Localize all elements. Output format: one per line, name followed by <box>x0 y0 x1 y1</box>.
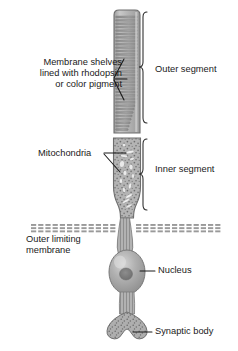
membrane-dash <box>89 227 94 229</box>
axon-fibers <box>119 292 134 314</box>
label-mitochondria: Mitochondria <box>38 148 91 159</box>
membrane-shelf <box>116 125 130 127</box>
label-outer-limiting-membrane-line2: membrane <box>26 245 81 256</box>
membrane-dash <box>74 224 79 226</box>
membrane-dash <box>60 230 65 232</box>
label-synaptic-body: Synaptic body <box>155 326 213 337</box>
membrane-dash <box>215 227 220 229</box>
membrane-dash <box>38 230 43 232</box>
membrane-shelf <box>116 16 138 18</box>
membrane-dash <box>186 230 191 232</box>
membrane-shelf <box>116 43 138 45</box>
membrane-dash <box>103 227 108 229</box>
membrane-dash <box>53 224 58 226</box>
membrane-dash <box>150 224 155 226</box>
photoreceptor-diagram: Membrane shelves lined with rhodopsin or… <box>0 0 238 351</box>
diagram-canvas <box>0 0 238 351</box>
membrane-dash <box>165 227 170 229</box>
nucleolus <box>120 268 133 280</box>
membrane-dash <box>201 227 206 229</box>
membrane-dash <box>96 230 101 232</box>
membrane-dash <box>172 224 177 226</box>
membrane-dash <box>81 230 86 232</box>
membrane-dash <box>215 224 220 226</box>
membrane-dash <box>74 230 79 232</box>
membrane-dash <box>186 224 191 226</box>
membrane-shelf <box>116 47 138 49</box>
membrane-dash <box>110 227 115 229</box>
label-membrane-shelves: Membrane shelves lined with rhodopsin or… <box>4 57 122 91</box>
axon-stalk <box>119 292 134 314</box>
membrane-shelf <box>116 91 138 93</box>
membrane-dash <box>194 224 199 226</box>
membrane-dash <box>45 227 50 229</box>
nucleus-highlight <box>114 256 126 269</box>
label-membrane-shelves-line2: lined with rhodopsin <box>4 68 122 79</box>
membrane-dash <box>31 227 36 229</box>
label-outer-limiting-membrane: Outer limiting membrane <box>26 234 81 256</box>
membrane-dash <box>158 230 163 232</box>
membrane-shelf <box>116 122 131 124</box>
membrane-dash <box>60 224 65 226</box>
membrane-dash <box>53 227 58 229</box>
membrane-dash <box>89 230 94 232</box>
membrane-shelf <box>116 23 138 25</box>
membrane-dash <box>179 230 184 232</box>
connecting-neck <box>117 218 133 254</box>
membrane-shelf <box>116 115 133 117</box>
label-inner-segment: Inner segment <box>155 164 214 175</box>
inner-segment-shape <box>114 138 141 218</box>
membrane-dash <box>67 224 72 226</box>
membrane-dash <box>158 224 163 226</box>
membrane-dash <box>89 224 94 226</box>
membrane-shelf <box>116 118 132 120</box>
membrane-dash <box>38 224 43 226</box>
membrane-dash <box>74 227 79 229</box>
membrane-dash <box>67 230 72 232</box>
membrane-dash <box>60 227 65 229</box>
membrane-dash <box>158 227 163 229</box>
membrane-shelf <box>116 108 135 110</box>
membrane-dash <box>103 230 108 232</box>
membrane-dash <box>201 224 206 226</box>
membrane-dash <box>45 224 50 226</box>
membrane-dash <box>53 230 58 232</box>
membrane-dash <box>38 227 43 229</box>
membrane-dash <box>194 227 199 229</box>
membrane-dash <box>208 224 213 226</box>
membrane-dash <box>136 227 141 229</box>
membrane-dash <box>103 224 108 226</box>
membrane-dash <box>194 230 199 232</box>
membrane-dash <box>208 227 213 229</box>
membrane-dash <box>136 230 141 232</box>
membrane-dash <box>150 227 155 229</box>
membrane-dash <box>186 227 191 229</box>
membrane-dash <box>31 224 36 226</box>
label-outer-segment: Outer segment <box>155 64 217 75</box>
membrane-dash <box>31 230 36 232</box>
membrane-dash <box>67 227 72 229</box>
membrane-dash <box>81 227 86 229</box>
membrane-dash <box>143 224 148 226</box>
membrane-shelf <box>116 33 138 35</box>
label-membrane-shelves-line3: or color pigment <box>4 79 122 90</box>
membrane-shelf <box>116 129 129 131</box>
nucleus-region <box>109 250 145 294</box>
neck-fibers <box>117 218 133 254</box>
membrane-shelf <box>116 94 138 96</box>
membrane-dash <box>172 227 177 229</box>
membrane-shelf <box>116 98 138 100</box>
membrane-dash <box>143 227 148 229</box>
membrane-dash <box>215 230 220 232</box>
label-nucleus: Nucleus <box>158 265 192 276</box>
mitochondrion <box>122 144 125 147</box>
membrane-dash <box>179 224 184 226</box>
mitochondrion <box>123 170 127 175</box>
synaptic-body-shape <box>107 312 147 339</box>
membrane-shelf <box>116 30 138 32</box>
label-outer-limiting-membrane-line1: Outer limiting <box>26 234 81 245</box>
membrane-dash <box>96 224 101 226</box>
membrane-shelf <box>116 105 136 107</box>
membrane-dash <box>172 230 177 232</box>
membrane-dash <box>150 230 155 232</box>
